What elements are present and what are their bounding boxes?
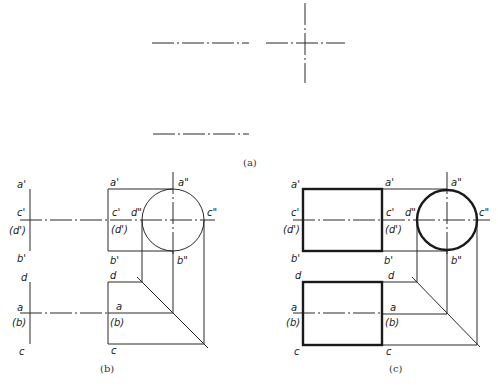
label-c-prime-left: c' [291,207,299,218]
label-d-prime-left: (d') [283,224,300,235]
label-b-prime-right: b' [384,255,393,266]
caption-b: (b) [100,363,114,374]
label-b-left: (b) [286,317,300,328]
label-d-left: d [295,270,302,281]
label-a-prime-right: a' [385,177,394,188]
label-b-left: (b) [12,317,26,328]
label-d: d [110,270,117,281]
label-b-double-prime: b" [451,255,462,266]
label-a-double-prime: a" [178,177,189,188]
label-d-prime: (d') [111,224,128,235]
label-c-prime: c' [112,207,120,218]
label-d-right: d [388,270,395,281]
label-a-double-prime: a" [451,177,462,188]
label-c-right: c [386,346,392,357]
caption-c: (c) [389,363,403,374]
label-a-right: a [390,302,396,313]
panel-b: a' c' (d') b' d a (b) c a' c' (d') b' a"… [9,172,217,374]
label-b-prime: b' [110,255,119,266]
label-b-double-prime: b" [177,255,188,266]
label-c-left: c [294,346,300,357]
orthographic-projection-figure: (a) a' c' (d') b' d a (b) c a' c' ( [0,0,498,387]
label-c: c [111,345,117,356]
label-c-double-prime: c" [207,207,217,218]
label-a-prime: a' [110,177,119,188]
label-b-prime-left: b' [291,253,300,264]
label-d-left: d [21,272,28,283]
label-a: a [116,301,122,312]
label-a-left: a [17,302,23,313]
panel-a: (a) [152,3,345,168]
label-c-prime-left: c' [17,207,25,218]
label-b-right: (b) [385,317,399,328]
label-a-prime-left: a' [291,179,300,190]
label-a-left: a [291,302,297,313]
label-b-prime-left: b' [17,253,26,264]
label-d-double-prime: d" [131,207,142,218]
label-d-double-prime: d" [405,207,416,218]
panel-c: a' c' (d') b' a' c' (d') b' a" d" c" b" … [283,172,490,374]
label-d-prime-right: (d') [385,224,402,235]
label-c-left: c [19,346,25,357]
miter-line [412,277,480,347]
caption-a: (a) [243,157,257,168]
label-d-prime-left: (d') [9,225,26,236]
label-a-prime-left: a' [17,179,26,190]
drawing-canvas: (a) a' c' (d') b' d a (b) c a' c' ( [0,0,498,387]
label-b: (b) [110,317,124,328]
label-c-double-prime: c" [479,207,489,218]
label-c-prime-right: c' [386,207,394,218]
